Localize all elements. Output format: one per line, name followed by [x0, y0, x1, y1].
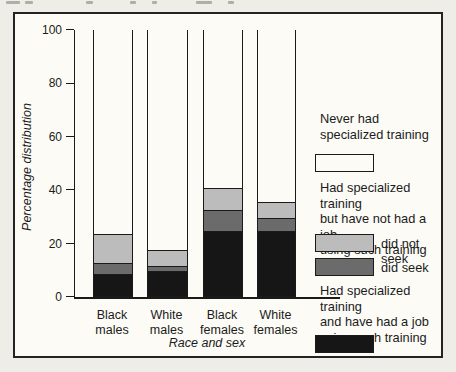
legend-swatch-did-seek	[315, 258, 374, 276]
y-axis-tick	[66, 83, 74, 84]
cropped-text-fragment	[25, 1, 33, 4]
bar-segment	[94, 29, 132, 235]
plot-area: 100806040200	[74, 30, 340, 299]
y-axis-tick-label: 100	[28, 23, 62, 37]
y-axis-tick-label: 80	[28, 76, 62, 90]
bar-segment	[94, 275, 132, 296]
legend-swatch-never	[315, 154, 374, 172]
legend-swatch-had-job	[315, 335, 374, 353]
cropped-text-fragment	[228, 1, 234, 4]
y-axis-tick	[66, 136, 74, 137]
bar-black-males	[93, 30, 133, 297]
y-axis-tick-label: 60	[28, 130, 62, 144]
bar-segment	[204, 29, 242, 189]
bar-segment	[148, 29, 187, 251]
bar-segment	[204, 189, 242, 210]
y-axis-tick-label: 40	[28, 183, 62, 197]
y-axis-tick	[66, 296, 74, 297]
legend-label-did-seek: did seek	[381, 260, 429, 275]
bar-segment	[258, 203, 295, 219]
bar-segment	[258, 219, 295, 232]
cropped-text-fragment	[86, 1, 93, 4]
bar-segment	[148, 251, 187, 267]
bar-segment	[258, 232, 295, 296]
bar-segment	[204, 232, 242, 296]
cropped-text-fragment	[152, 1, 157, 4]
cropped-text-fragment	[130, 1, 136, 4]
legend-label-never: Never had specialized training	[320, 111, 429, 142]
bar-segment	[94, 235, 132, 264]
bar-segment	[258, 29, 295, 203]
y-axis-tick	[66, 189, 74, 190]
bar-segment	[148, 272, 187, 296]
cropped-text-fragment	[196, 1, 212, 4]
x-axis-title: Race and sex	[132, 336, 282, 350]
y-axis-tick-label: 0	[28, 290, 62, 304]
bar-white-males	[147, 30, 188, 297]
y-axis-tick-label: 20	[28, 237, 62, 251]
bar-segment	[204, 211, 242, 232]
bar-segment	[148, 267, 187, 272]
y-axis-title: Percentage distribution	[20, 77, 38, 257]
scanned-page: Percentage distribution 100806040200 Bla…	[0, 0, 456, 372]
bar-segment	[94, 264, 132, 275]
legend-swatch-did-not-seek	[315, 234, 374, 252]
y-axis-tick	[66, 29, 74, 30]
bar-black-females	[203, 30, 243, 297]
cropped-text-fragment	[6, 1, 20, 4]
bar-white-females	[257, 30, 296, 297]
figure-frame: Percentage distribution 100806040200 Bla…	[13, 12, 443, 358]
x-axis-category-label: Whitefemales	[236, 308, 316, 338]
y-axis-tick	[66, 243, 74, 244]
